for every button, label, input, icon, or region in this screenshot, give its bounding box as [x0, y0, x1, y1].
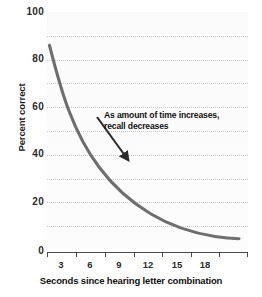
x-tick-mark-2 — [105, 252, 106, 257]
x-tick-mark-end — [247, 252, 248, 257]
y-tick-label-100: 100 — [0, 6, 44, 17]
annotation-text: As amount of time increases, recall decr… — [104, 110, 256, 133]
x-tick-label-9: 9 — [107, 259, 131, 270]
x-tick-label-6: 6 — [78, 259, 102, 270]
y-tick-label-80: 80 — [0, 53, 44, 64]
forgetting-curve-chart: Percent correct 100 80 60 40 20 0 — [0, 0, 262, 297]
y-axis-tick-labels: 100 80 60 40 20 0 — [0, 0, 44, 297]
x-tick-mark-1 — [76, 252, 77, 257]
y-tick-label-0: 0 — [0, 245, 44, 256]
x-tick-mark-3 — [134, 252, 135, 257]
y-tick-label-40: 40 — [0, 148, 44, 159]
x-tick-label-18: 18 — [193, 259, 217, 270]
x-axis-line — [47, 252, 248, 253]
y-tick-label-20: 20 — [0, 196, 44, 207]
annotation-line-1: As amount of time increases, — [104, 110, 219, 120]
x-tick-mark-5 — [191, 252, 192, 257]
x-tick-label-12: 12 — [136, 259, 160, 270]
x-tick-mark-4 — [162, 252, 163, 257]
x-axis-title: Seconds since hearing letter combination — [0, 275, 262, 286]
x-tick-mark-6 — [219, 252, 220, 257]
annotation-line-2: recall decreases — [104, 121, 256, 132]
x-tick-label-15: 15 — [165, 259, 189, 270]
x-tick-mark-start — [47, 252, 48, 257]
x-tick-label-3: 3 — [49, 259, 73, 270]
y-tick-label-60: 60 — [0, 101, 44, 112]
